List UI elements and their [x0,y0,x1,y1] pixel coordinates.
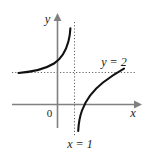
math-figure: y x 0 y = 2 x = 1 [0,0,146,154]
origin-label: 0 [47,107,53,119]
y-axis-label: y [43,12,51,26]
horizontal-asymptote-label: y = 2 [100,55,126,69]
figure-background [0,0,146,154]
x-axis-label: x [129,106,136,120]
vertical-asymptote-label: x = 1 [66,137,92,151]
graph-canvas: y x 0 y = 2 x = 1 [0,0,146,154]
